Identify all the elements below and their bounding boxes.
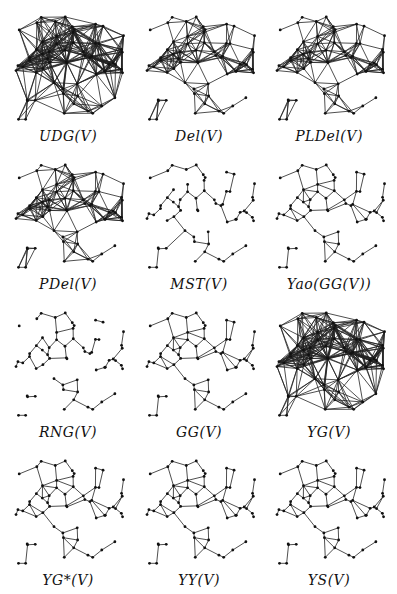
graph-pldel — [263, 2, 395, 130]
graph-rng — [2, 298, 134, 426]
caption-udg: UDG(V) — [2, 128, 134, 144]
panel-yaogg: Yao(GG(V)) — [263, 150, 395, 298]
panel-del: Del(V) — [133, 2, 265, 150]
panel-pldel: PLDel(V) — [263, 2, 395, 150]
caption-rng: RNG(V) — [2, 424, 134, 440]
caption-del: Del(V) — [133, 128, 265, 144]
graph-del — [133, 2, 265, 130]
caption-mst: MST(V) — [133, 276, 265, 292]
graph-yaogg — [263, 150, 395, 278]
figure-grid: UDG(V) Del(V) PLDel(V) PDel(V) MST(V) Ya… — [0, 0, 397, 594]
panel-pdel: PDel(V) — [2, 150, 134, 298]
caption-gg: GG(V) — [133, 424, 265, 440]
panel-rng: RNG(V) — [2, 298, 134, 446]
graph-ys — [263, 446, 395, 574]
panel-udg: UDG(V) — [2, 2, 134, 150]
graph-yg — [263, 298, 395, 426]
graph-udg — [2, 2, 134, 130]
caption-pdel: PDel(V) — [2, 276, 134, 292]
caption-ys: YS(V) — [263, 572, 395, 588]
graph-pdel — [2, 150, 134, 278]
graph-gg — [133, 298, 265, 426]
caption-yg: YG(V) — [263, 424, 395, 440]
caption-yy: YY(V) — [133, 572, 265, 588]
caption-ygstar: YG*(V) — [2, 572, 134, 588]
panel-yy: YY(V) — [133, 446, 265, 594]
panel-ygstar: YG*(V) — [2, 446, 134, 594]
panel-yg: YG(V) — [263, 298, 395, 446]
graph-yy — [133, 446, 265, 574]
caption-pldel: PLDel(V) — [263, 128, 395, 144]
graph-ygstar — [2, 446, 134, 574]
panel-gg: GG(V) — [133, 298, 265, 446]
panel-ys: YS(V) — [263, 446, 395, 594]
panel-mst: MST(V) — [133, 150, 265, 298]
graph-mst — [133, 150, 265, 278]
caption-yaogg: Yao(GG(V)) — [263, 276, 395, 292]
